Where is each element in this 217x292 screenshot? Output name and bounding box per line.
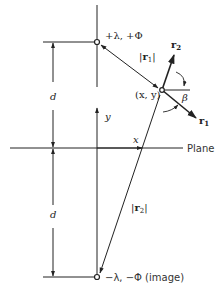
beta-angle-arc-upper [176,72,184,86]
r2-vector-label: r2 [171,39,181,52]
r1-distance-line [101,45,158,88]
distance-upper-label: d [50,91,56,102]
field-point-label: (x, y) [135,89,161,100]
r2-vector-arrow [162,55,174,90]
beta-angle-label: β [181,92,188,103]
y-axis-label: y [104,111,111,122]
r1-vector-arrow [162,90,196,118]
r2-magnitude-label: |r2| [131,202,148,215]
source-charge-marker [95,40,100,45]
field-point-marker [160,88,165,93]
plane-label: Plane [187,143,214,154]
x-axis-label: x [133,134,139,145]
distance-lower-label: d [50,209,56,220]
r1-vector-label: r1 [199,115,209,128]
beta-angle-arc-lower [163,105,178,112]
source-charge-label: +λ, +Φ [105,30,143,41]
r1-magnitude-label: |r1| [139,51,156,64]
image-charge-diagram: y Plane x d d |r1| |r2| r2 r1 β (x, y) +… [0,0,217,292]
image-charge-label: −λ, −Φ (image) [105,272,184,283]
image-charge-marker [95,275,100,280]
